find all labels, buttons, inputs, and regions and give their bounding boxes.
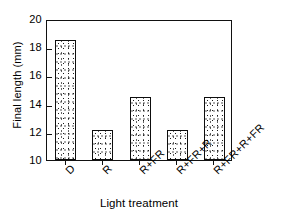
y-axis-tick-labels: 101214161820 [22, 20, 42, 161]
bar [130, 97, 151, 160]
y-tick-label: 12 [22, 127, 42, 138]
x-category-label: R [100, 162, 114, 176]
y-tick-mark [47, 106, 52, 107]
bar [55, 40, 76, 160]
y-tick-label: 20 [22, 14, 42, 25]
x-category-label: D [63, 162, 77, 176]
bar [92, 130, 113, 160]
y-tick-mark [47, 134, 52, 135]
y-tick-label: 18 [22, 42, 42, 53]
y-tick-label: 14 [22, 99, 42, 110]
x-axis-title: Light treatment [46, 197, 232, 210]
y-tick-mark [47, 49, 52, 50]
y-tick-label: 16 [22, 70, 42, 81]
y-tick-label: 10 [22, 155, 42, 166]
bar-chart-figure: Final length (mm) 101214161820 DRR+FRR+F… [0, 0, 283, 219]
y-tick-mark [47, 77, 52, 78]
